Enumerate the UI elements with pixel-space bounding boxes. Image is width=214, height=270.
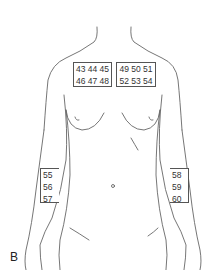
- site-box-upper-right-chest: 49 50 51 52 53 54: [116, 62, 156, 87]
- site-row: 57: [41, 193, 59, 205]
- torso-outline-icon: [0, 0, 214, 270]
- site-row: 58: [170, 169, 188, 181]
- site-row: 49 50 51: [117, 63, 155, 75]
- site-row: 59: [170, 181, 188, 193]
- torso-diagram: 43 44 45 46 47 48 49 50 51 52 53 54 55 5…: [0, 0, 214, 270]
- panel-letter: B: [10, 250, 18, 264]
- site-row: 43 44 45: [74, 63, 111, 75]
- site-box-right-forearm: 58 59 60: [170, 168, 189, 203]
- site-box-upper-left-chest: 43 44 45 46 47 48: [73, 62, 112, 87]
- site-row: 55: [41, 169, 59, 181]
- site-box-left-forearm: 55 56 57: [40, 168, 59, 203]
- site-row: 52 53 54: [117, 75, 155, 87]
- site-row: 56: [41, 181, 59, 193]
- site-row: 60: [170, 193, 188, 205]
- site-row: 46 47 48: [74, 75, 111, 87]
